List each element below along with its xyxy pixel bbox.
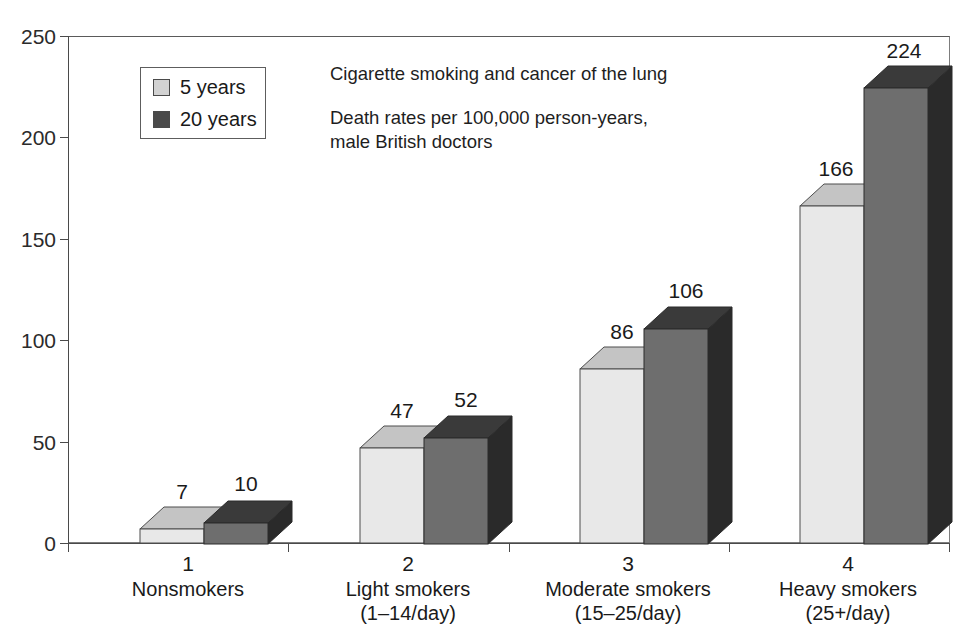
category-label-light-smokers: Light smokers (1–14/day): [318, 577, 498, 625]
category-label-moderate-smokers: Moderate smokers (15–25/day): [528, 577, 728, 625]
bar-chart: 250 200 150 100 50 0 7 10: [0, 0, 971, 642]
y-tick-mark-200: [60, 137, 69, 138]
legend: 5 years 20 years: [140, 67, 266, 139]
y-axis-line: [68, 36, 69, 544]
y-tick-mark-100: [60, 340, 69, 341]
chart-subtitle-annotation: Death rates per 100,000 person-years, ma…: [330, 106, 648, 154]
bar-value-nonsmokers-5y: 7: [152, 481, 212, 502]
y-tick-mark-250: [60, 36, 69, 37]
category-label-nonsmokers: Nonsmokers: [108, 577, 268, 601]
legend-swatch-20-years: [153, 111, 170, 128]
x-tick-mark-2: [288, 543, 289, 552]
y-tick-mark-50: [60, 442, 69, 443]
x-tick-mark-4: [729, 543, 730, 552]
x-tick-mark-5: [949, 543, 950, 552]
y-tick-label-200: 200: [0, 127, 56, 148]
category-number-3: 3: [588, 553, 668, 575]
bar-value-nonsmokers-20y: 10: [216, 473, 276, 494]
bar-value-moderate-5y: 86: [592, 321, 652, 342]
chart-title-annotation: Cigarette smoking and cancer of the lung: [330, 62, 667, 86]
y-tick-label-50: 50: [0, 432, 56, 453]
y-tick-label-100: 100: [0, 330, 56, 351]
y-tick-label-250: 250: [0, 26, 56, 47]
category-number-2: 2: [368, 553, 448, 575]
category-label-heavy-smokers: Heavy smokers (25+/day): [758, 577, 938, 625]
category-number-1: 1: [148, 553, 228, 575]
y-tick-label-150: 150: [0, 229, 56, 250]
category-number-4: 4: [808, 553, 888, 575]
legend-label-5-years: 5 years: [180, 77, 246, 97]
legend-swatch-5-years: [153, 79, 170, 96]
y-tick-label-0: 0: [0, 533, 56, 554]
legend-entry-5-years: 5 years: [153, 76, 246, 98]
y-tick-mark-150: [60, 239, 69, 240]
x-tick-mark-3: [509, 543, 510, 552]
bar-value-light-5y: 47: [372, 400, 432, 421]
bar-value-moderate-20y: 106: [656, 280, 716, 301]
legend-entry-20-years: 20 years: [153, 108, 257, 130]
x-tick-mark-1: [68, 543, 69, 552]
bar-value-light-20y: 52: [436, 389, 496, 410]
bar-value-heavy-5y: 166: [806, 158, 866, 179]
legend-label-20-years: 20 years: [180, 109, 257, 129]
bar-value-heavy-20y: 224: [874, 40, 934, 61]
